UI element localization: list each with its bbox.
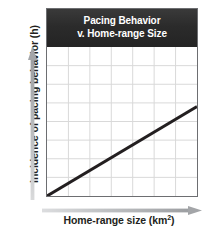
chart-title-line-1: Pacing Behavior [47,14,197,27]
chart-plot-box: Pacing Behavior v. Home-range Size [46,8,198,197]
x-axis-arrow [42,201,202,210]
chart-figure: Incidence of pacing behavior (h) [0,0,208,237]
trend-line [47,47,197,196]
chart-title: Pacing Behavior v. Home-range Size [47,9,197,47]
plot-area [47,47,197,196]
x-axis-label: Home-range size (km2) [30,214,208,226]
up-arrow-icon [28,46,37,200]
y-axis-arrow [28,46,37,200]
x-axis-label-superscript: 2 [167,214,171,221]
chart-title-line-2: v. Home-range Size [47,27,197,40]
